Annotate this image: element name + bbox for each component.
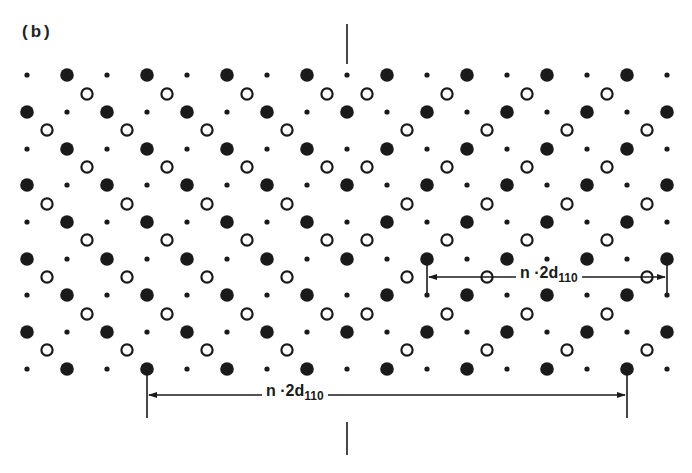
large-atom <box>260 178 274 192</box>
large-atom <box>540 142 554 156</box>
large-atom <box>180 105 194 119</box>
dimension-label-subscript: 110 <box>558 271 577 285</box>
small-atom <box>144 329 149 334</box>
open-atom <box>441 88 452 99</box>
large-atom <box>500 105 514 119</box>
open-atom <box>361 234 372 245</box>
open-atom <box>521 234 532 245</box>
small-atom <box>224 182 229 187</box>
small-atom <box>624 256 629 261</box>
large-atom <box>140 215 154 229</box>
open-atom <box>121 271 132 282</box>
small-atom <box>664 72 669 77</box>
large-atom <box>300 142 314 156</box>
small-atom <box>64 109 69 114</box>
open-atom <box>481 198 492 209</box>
open-atom <box>401 198 412 209</box>
large-atom <box>100 325 114 339</box>
atom-lattice <box>20 68 674 376</box>
large-atom <box>300 68 314 82</box>
large-atom <box>60 68 74 82</box>
large-atom <box>580 105 594 119</box>
small-atom <box>184 219 189 224</box>
open-atom <box>41 271 52 282</box>
large-atom <box>380 142 394 156</box>
large-atom <box>100 178 114 192</box>
large-atom <box>420 105 434 119</box>
small-atom <box>584 72 589 77</box>
small-atom <box>504 146 509 151</box>
large-atom <box>100 252 114 266</box>
small-atom <box>64 256 69 261</box>
large-atom <box>300 362 314 376</box>
large-atom <box>380 68 394 82</box>
small-atom <box>24 366 29 371</box>
large-atom <box>660 105 674 119</box>
small-atom <box>224 256 229 261</box>
large-atom <box>220 288 234 302</box>
large-atom <box>620 215 634 229</box>
small-atom <box>264 146 269 151</box>
open-atom <box>641 124 652 135</box>
dimension-label-main: n ·2d <box>266 382 304 399</box>
open-atom <box>441 308 452 319</box>
large-atom <box>620 142 634 156</box>
small-atom <box>544 256 549 261</box>
open-atom <box>561 124 572 135</box>
large-atom <box>20 252 34 266</box>
large-atom <box>20 178 34 192</box>
large-atom <box>180 252 194 266</box>
small-atom <box>24 72 29 77</box>
large-atom <box>220 142 234 156</box>
open-atom <box>81 161 92 172</box>
large-atom <box>540 362 554 376</box>
large-atom <box>580 178 594 192</box>
large-atom <box>260 325 274 339</box>
small-atom <box>304 329 309 334</box>
large-atom <box>340 252 354 266</box>
open-atom <box>321 234 332 245</box>
large-atom <box>260 252 274 266</box>
small-atom <box>144 256 149 261</box>
open-atom <box>481 344 492 355</box>
small-atom <box>344 146 349 151</box>
small-atom <box>424 146 429 151</box>
open-atom <box>601 234 612 245</box>
open-atom <box>321 308 332 319</box>
small-atom <box>64 329 69 334</box>
open-atom <box>641 344 652 355</box>
small-atom <box>304 109 309 114</box>
open-atom <box>361 88 372 99</box>
dimension-label-subscript: 110 <box>304 389 323 403</box>
open-atom <box>481 124 492 135</box>
arrow-left-icon <box>148 392 157 398</box>
small-atom <box>424 219 429 224</box>
open-atom <box>361 308 372 319</box>
small-atom <box>504 72 509 77</box>
large-atom <box>580 325 594 339</box>
large-atom <box>140 142 154 156</box>
large-atom <box>180 178 194 192</box>
large-atom <box>540 68 554 82</box>
open-atom <box>361 161 372 172</box>
small-atom <box>624 329 629 334</box>
dimension-label-lower: n ·2d110 <box>262 382 328 403</box>
large-atom <box>60 142 74 156</box>
small-atom <box>24 292 29 297</box>
open-atom <box>561 198 572 209</box>
open-atom <box>521 88 532 99</box>
small-atom <box>264 219 269 224</box>
large-atom <box>220 362 234 376</box>
open-atom <box>41 124 52 135</box>
open-atom <box>281 198 292 209</box>
small-atom <box>104 146 109 151</box>
small-atom <box>64 182 69 187</box>
open-atom <box>201 344 212 355</box>
open-atom <box>241 308 252 319</box>
large-atom <box>500 178 514 192</box>
open-atom <box>241 234 252 245</box>
small-atom <box>584 146 589 151</box>
small-atom <box>584 292 589 297</box>
large-atom <box>540 288 554 302</box>
small-atom <box>184 292 189 297</box>
